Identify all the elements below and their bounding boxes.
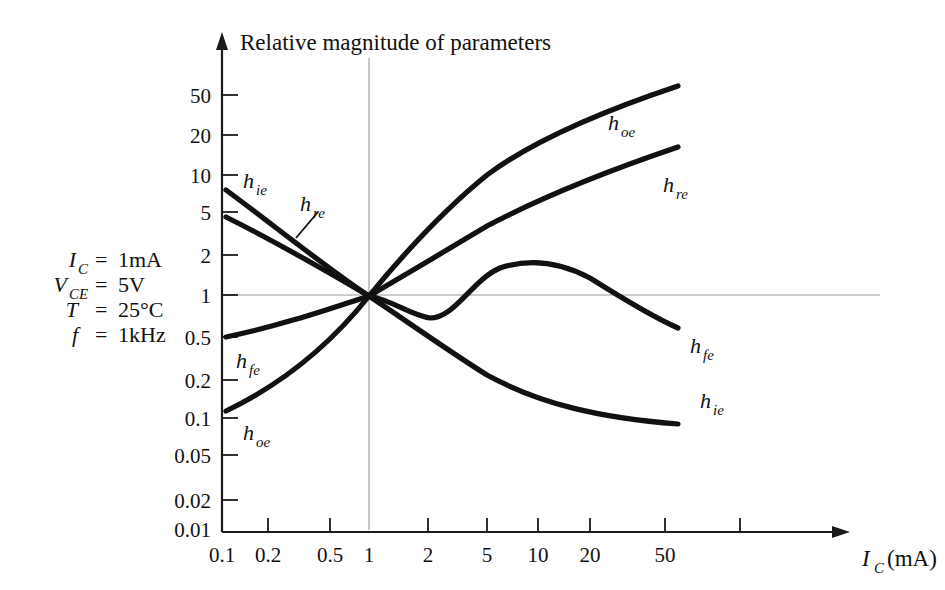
curve-label-right-h-re: h re <box>663 172 688 202</box>
h-parameter-variation-chart: 50 20 10 5 2 1 0.5 0.2 0.1 0.05 0.02 0.0… <box>0 0 945 590</box>
curve-label-left-h-re-subscript: re <box>313 205 325 221</box>
condition-3-equals: = <box>95 322 107 347</box>
curve-label-right-h-re-symbol: h <box>663 172 674 197</box>
curve-label-left-h-ie: h ie <box>243 168 267 198</box>
condition-0-value: 1mA <box>118 247 162 272</box>
curve-h-re <box>226 147 678 296</box>
x-tick-label-20: 20 <box>580 543 601 567</box>
x-tick-label-2: 2 <box>423 543 434 567</box>
figure-container: 50 20 10 5 2 1 0.5 0.2 0.1 0.05 0.02 0.0… <box>0 0 945 590</box>
curve-label-right-h-oe-symbol: h <box>608 110 619 135</box>
condition-1-equals: = <box>95 272 107 297</box>
curve-label-right-h-fe: h fe <box>690 333 714 363</box>
x-axis-title-symbol: I <box>861 546 871 571</box>
condition-2-value: 25°C <box>118 297 163 322</box>
x-tick-label-0.5: 0.5 <box>317 543 343 567</box>
curve-label-right-h-ie: h ie <box>700 388 724 418</box>
curve-label-left-h-fe-subscript: fe <box>249 362 260 378</box>
curve-label-left-h-fe-symbol: h <box>236 348 247 373</box>
curve-label-right-h-ie-subscript: ie <box>713 402 724 418</box>
test-conditions-block: I C = 1mA V CE = 5V T = 25°C f = 1kHz <box>54 247 166 347</box>
x-tick-label-5: 5 <box>482 543 493 567</box>
y-tick-label-0.05: 0.05 <box>174 444 211 468</box>
curve-label-right-h-ie-symbol: h <box>700 388 711 413</box>
x-axis-ticks <box>268 518 740 532</box>
curve-label-right-h-fe-subscript: fe <box>703 347 714 363</box>
y-tick-label-50: 50 <box>190 84 211 108</box>
x-tick-label-1: 1 <box>364 543 375 567</box>
condition-0-subscript: C <box>78 261 89 277</box>
x-axis-title-unit: (mA) <box>887 546 937 571</box>
curve-label-left-h-oe: h oe <box>243 420 271 450</box>
curve-label-left-h-ie-subscript: ie <box>256 182 267 198</box>
curve-label-right-h-oe-subscript: oe <box>621 124 636 140</box>
y-tick-label-20: 20 <box>190 124 211 148</box>
x-tick-label-50: 50 <box>655 543 676 567</box>
y-tick-label-0.02: 0.02 <box>174 489 211 513</box>
condition-0-symbol: I <box>68 247 78 272</box>
y-tick-label-0.2: 0.2 <box>185 369 211 393</box>
y-tick-label-0.1: 0.1 <box>185 407 211 431</box>
y-axis-title: Relative magnitude of parameters <box>240 30 551 55</box>
curve-h-fe <box>226 263 678 337</box>
condition-1-symbol: V <box>54 272 70 297</box>
y-axis-arrowhead <box>216 32 228 50</box>
y-tick-label-10: 10 <box>190 164 211 188</box>
x-axis-arrowhead <box>832 526 850 538</box>
x-tick-label-0.2: 0.2 <box>255 543 281 567</box>
x-tick-label-10: 10 <box>528 543 549 567</box>
condition-0-equals: = <box>95 247 107 272</box>
x-axis-title: I C (mA) <box>861 546 937 576</box>
condition-3-value: 1kHz <box>118 322 166 347</box>
condition-1-value: 5V <box>118 272 145 297</box>
y-tick-label-1: 1 <box>201 284 212 308</box>
curve-label-left-h-re-symbol: h <box>300 191 311 216</box>
curve-label-right-h-fe-symbol: h <box>690 333 701 358</box>
condition-2-equals: = <box>95 297 107 322</box>
condition-2-symbol: T <box>66 297 80 322</box>
x-axis-title-subscript: C <box>874 560 885 576</box>
curve-label-right-h-re-subscript: re <box>676 186 688 202</box>
y-tick-label-0.5: 0.5 <box>185 326 211 350</box>
x-tick-label-0.1: 0.1 <box>209 543 235 567</box>
y-tick-label-2: 2 <box>201 244 212 268</box>
y-tick-label-5: 5 <box>201 201 212 225</box>
curve-label-left-h-re: h re <box>300 191 325 221</box>
curve-label-right-h-oe: h oe <box>608 110 636 140</box>
curve-label-left-h-ie-symbol: h <box>243 168 254 193</box>
y-axis-ticks <box>222 95 238 500</box>
curve-label-left-h-oe-subscript: oe <box>256 434 271 450</box>
y-tick-label-0.01: 0.01 <box>174 518 211 542</box>
curve-label-left-h-fe: h fe <box>236 348 260 378</box>
curve-label-left-h-oe-symbol: h <box>243 420 254 445</box>
condition-3-symbol: f <box>72 322 81 347</box>
